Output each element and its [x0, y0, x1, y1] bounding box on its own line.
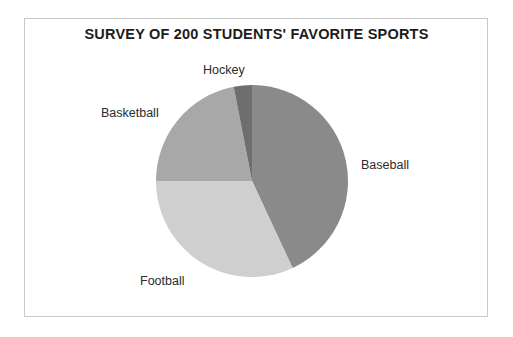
- pie-chart-svg: [0, 0, 513, 337]
- pie-label-basketball: Basketball: [101, 107, 159, 120]
- pie-slice-group: [156, 85, 348, 277]
- pie-label-football: Football: [140, 275, 184, 288]
- pie-label-baseball: Baseball: [361, 159, 409, 172]
- pie-chart: Hockey Basketball Baseball Football: [0, 0, 513, 337]
- chart-page: SURVEY OF 200 STUDENTS' FAVORITE SPORTS …: [0, 0, 513, 337]
- pie-label-hockey: Hockey: [203, 64, 245, 77]
